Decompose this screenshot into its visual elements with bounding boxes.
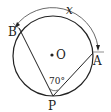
label-a: A — [92, 54, 102, 68]
chord-pb — [19, 28, 53, 96]
label-b: B — [8, 25, 17, 39]
arc-arrow-a-icon — [96, 45, 100, 51]
arc-x-indicator — [15, 8, 98, 47]
geometry-diagram: O B A P 70° x — [0, 0, 111, 112]
center-dot — [50, 53, 53, 56]
label-arc-x: x — [66, 3, 73, 17]
label-p: P — [48, 99, 56, 112]
label-o: O — [56, 48, 66, 62]
label-angle: 70° — [49, 76, 65, 86]
